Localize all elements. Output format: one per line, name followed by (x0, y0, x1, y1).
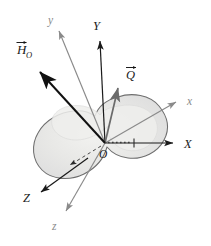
origin-label: O (99, 148, 108, 160)
axis-x-rotating-label: x (186, 95, 193, 107)
vector-Q-label: Q (126, 68, 135, 82)
vector-H-O-subscript: O (26, 50, 32, 60)
vector-Q-label-group: Q (126, 66, 136, 82)
vector-diagram: y Y x X Z z O H O Q (0, 0, 211, 246)
figure-container: y Y x X Z z O H O Q (0, 0, 211, 246)
axis-y-rotating-label: y (47, 14, 54, 27)
axis-X-label: X (183, 137, 193, 151)
vector-H-O-label-group: H O (16, 41, 32, 60)
axis-Z-label: Z (23, 191, 31, 205)
axis-Y-label: Y (93, 19, 102, 33)
axis-z-rotating-label: z (51, 220, 57, 232)
